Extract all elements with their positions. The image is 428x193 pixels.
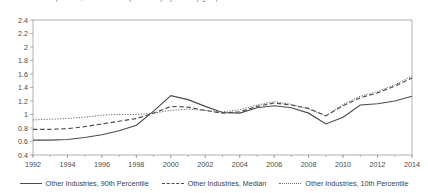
x-tick-label: 1994 [59, 160, 75, 169]
x-tick-label: 2012 [370, 160, 386, 169]
plot-svg: 2.42.221.81.61.41.210.80.60.4 1992199419… [0, 0, 428, 193]
series-line-p90 [33, 96, 412, 141]
data-series-group [33, 76, 412, 140]
y-tick-label: 1.8 [18, 56, 28, 65]
legend-item-p10: Other Industries, 10th Percentile [279, 179, 408, 188]
x-tick-label: 2000 [163, 160, 179, 169]
x-tick-label: 2008 [301, 160, 317, 169]
line-solid-swatch [20, 181, 42, 186]
x-tick-label: 2014 [404, 160, 420, 169]
x-tick-label: 2010 [335, 160, 351, 169]
legend-item-p90: Other Industries, 90th Percentile [20, 179, 149, 188]
y-tick-label: 0.6 [18, 137, 28, 146]
legend-label-p90: Other Industries, 90th Percentile [46, 179, 149, 188]
x-tick-label: 1998 [128, 160, 144, 169]
chart-legend: Other Industries, 90th Percentile Other … [0, 176, 428, 190]
plot-frame [33, 20, 412, 155]
series-line-median [33, 78, 412, 129]
line-dotted-swatch [279, 181, 301, 186]
y-tick-label: 0.8 [18, 124, 28, 133]
y-tick-label: 1.6 [18, 70, 28, 79]
legend-label-p10: Other Industries, 10th Percentile [305, 179, 408, 188]
y-tick-label: 0.4 [18, 151, 28, 160]
x-tick-label: 2002 [197, 160, 213, 169]
y-tick-label: 1.2 [18, 97, 28, 106]
x-tick-label: 1996 [94, 160, 110, 169]
y-axis-ticks: 2.42.221.81.61.41.210.80.60.4 [18, 16, 33, 160]
y-tick-label: 2 [24, 43, 28, 52]
legend-label-median: Other Industries, Median [188, 179, 267, 188]
x-tick-label: 2004 [232, 160, 248, 169]
x-tick-label: 2006 [266, 160, 282, 169]
y-tick-label: 1 [24, 110, 28, 119]
chart-figure: 2. Debt/EBITDA (median, 10th and 90th pe… [0, 0, 428, 193]
legend-item-median: Other Industries, Median [162, 179, 267, 188]
x-tick-label: 1992 [25, 160, 41, 169]
y-tick-label: 2.2 [18, 29, 28, 38]
y-tick-label: 2.4 [18, 16, 28, 25]
plot-area: 2.42.221.81.61.41.210.80.60.4 1992199419… [0, 0, 428, 193]
x-axis-ticks: 1992199419961998200020022004200620082010… [25, 155, 420, 169]
y-tick-label: 1.4 [18, 83, 28, 92]
line-dashed-swatch [162, 181, 184, 186]
